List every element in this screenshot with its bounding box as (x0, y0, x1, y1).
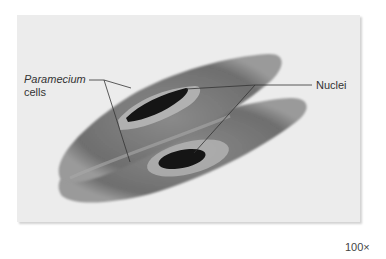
micrograph-figure: Paramecium cells Nuclei 100× (0, 0, 386, 259)
paramecium-illustration (0, 0, 386, 259)
nuclei-label: Nuclei (316, 78, 347, 92)
magnification-label: 100× (345, 241, 370, 253)
cells-label-second-line: cells (24, 85, 46, 99)
paramecium-cells-label: Paramecium (24, 72, 86, 86)
